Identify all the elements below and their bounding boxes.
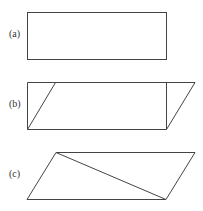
figure-diagram [0,0,203,211]
rectangle-a [28,13,167,60]
shape-c [27,153,195,200]
shape-b [28,83,196,130]
